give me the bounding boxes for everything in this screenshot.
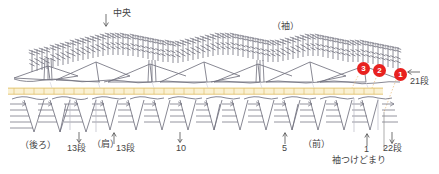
marker-circle-3[interactable]: 3 <box>357 62 370 75</box>
label-center: 中央 <box>113 8 131 18</box>
label-row-22: 22段 <box>383 143 402 153</box>
lower-chain-arcs <box>12 97 392 100</box>
marker-circle-2[interactable]: 2 <box>373 64 386 77</box>
label-rows-13-right: 13段 <box>116 143 135 153</box>
upper-shell-motifs <box>14 62 396 82</box>
label-count-1: 1 <box>364 144 369 154</box>
label-back: （後ろ） <box>20 140 56 150</box>
upper-inner-posts <box>44 58 264 82</box>
marker-circle-1[interactable]: 1 <box>394 68 407 81</box>
label-count-10: 10 <box>176 143 186 153</box>
connection-guides <box>50 82 368 88</box>
label-shoulder: （肩） <box>92 139 119 149</box>
stitch-chart-diagram: 中央 （袖） 21段 （後ろ） 13段 （肩） 13段 10 5 （前） 1 2… <box>0 0 439 174</box>
lower-row-ticks <box>10 104 398 128</box>
label-sleeve-stop: 袖つけどまり <box>332 155 386 165</box>
label-count-5: 5 <box>282 143 287 153</box>
label-row-21: 21段 <box>410 76 429 86</box>
guide-band <box>8 88 383 95</box>
label-rows-13-left: 13段 <box>67 143 86 153</box>
lower-separators <box>70 98 378 132</box>
lower-stitch-rows <box>10 97 398 132</box>
stitch-diagram-svg <box>0 0 439 174</box>
label-sleeve: （袖） <box>272 21 299 31</box>
label-front: （前） <box>303 139 330 149</box>
upper-stitch-rows <box>14 33 401 112</box>
